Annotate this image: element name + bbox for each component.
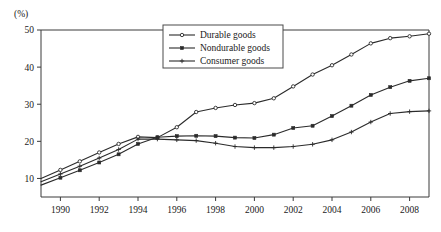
y-tick-label: 40 (25, 63, 35, 73)
legend-label: Consumer goods (200, 56, 264, 66)
y-tick-label: 30 (25, 100, 35, 110)
y-tick-label: 10 (25, 174, 35, 184)
chart-canvas: 1020304050 19901992199419961998200020022… (0, 0, 441, 232)
y-tick-label: 20 (25, 137, 35, 147)
x-tick-label: 1994 (129, 205, 148, 215)
x-tick-label: 2008 (400, 205, 419, 215)
x-tick-label: 2000 (245, 205, 264, 215)
y-tick-label: 50 (25, 25, 35, 35)
legend-label: Durable goods (200, 30, 256, 40)
x-tick-label: 1992 (90, 205, 109, 215)
x-tick-label: 1998 (206, 205, 225, 215)
x-tick-label: 2002 (284, 205, 303, 215)
line-chart: 1020304050 19901992199419961998200020022… (0, 0, 441, 232)
legend-label: Nondurable goods (200, 43, 270, 53)
x-tick-label: 1996 (167, 205, 186, 215)
x-tick-label: 2004 (323, 205, 342, 215)
x-tick-label: 2006 (361, 205, 380, 215)
chart-legend: Durable goodsNondurable goodsConsumer go… (163, 25, 283, 68)
y-axis-unit-label: (%) (14, 9, 28, 20)
x-tick-label: 1990 (51, 205, 70, 215)
